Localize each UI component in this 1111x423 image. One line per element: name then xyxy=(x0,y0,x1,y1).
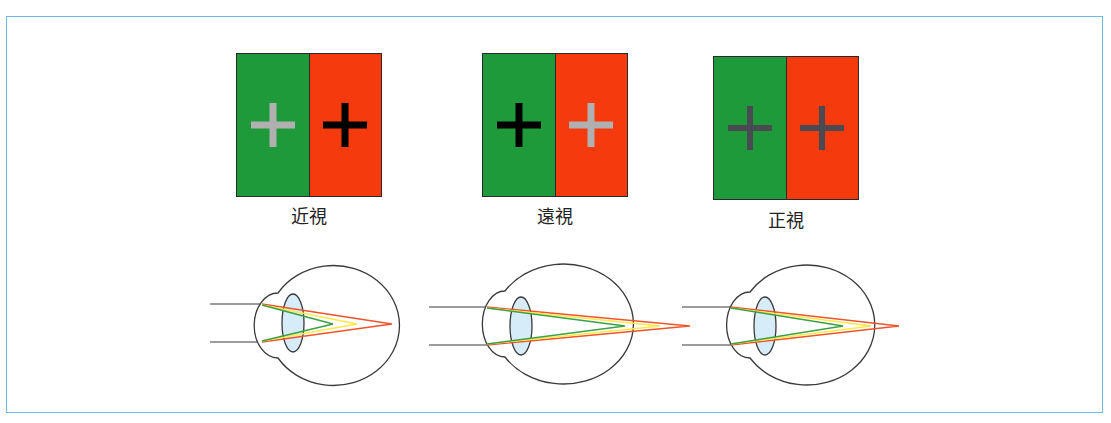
emmetropia-eye xyxy=(682,265,899,385)
myopia-eye xyxy=(210,266,399,386)
hyperopia-eye xyxy=(429,264,690,384)
eye-diagrams xyxy=(0,0,1111,423)
